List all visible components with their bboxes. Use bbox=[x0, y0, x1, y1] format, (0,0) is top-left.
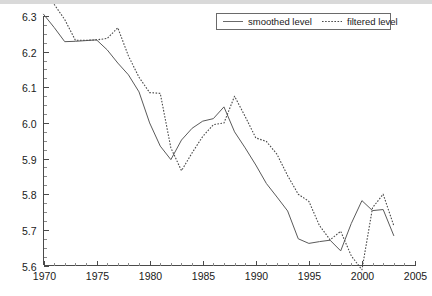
x-tick-label: 1985 bbox=[192, 270, 216, 282]
x-axis-ticks bbox=[45, 261, 416, 266]
x-tick-label: 1975 bbox=[86, 270, 110, 282]
series-smoothed-level bbox=[44, 14, 394, 251]
x-tick-label: 2005 bbox=[404, 270, 428, 282]
x-tick-label: 1995 bbox=[298, 270, 322, 282]
y-tick-label: 6.1 bbox=[22, 82, 37, 94]
legend-label-filtered: filtered level bbox=[347, 16, 398, 27]
y-tick-label: 5.7 bbox=[22, 225, 37, 237]
chart-container: 5.65.75.85.96.06.16.26.3 197019751980198… bbox=[0, 0, 432, 296]
y-axis-tick-labels: 5.65.75.85.96.06.16.26.3 bbox=[22, 11, 37, 273]
x-tick-label: 1990 bbox=[245, 270, 269, 282]
chart-legend: smoothed level filtered level bbox=[217, 14, 398, 30]
y-axis-ticks bbox=[44, 17, 49, 267]
x-axis-group: 19701975198019851990199520002005 bbox=[33, 261, 428, 282]
y-tick-label: 6.3 bbox=[22, 11, 37, 23]
x-tick-label: 2000 bbox=[351, 270, 375, 282]
x-tick-label: 1980 bbox=[139, 270, 163, 282]
y-tick-label: 5.9 bbox=[22, 154, 37, 166]
x-tick-label: 1970 bbox=[33, 270, 57, 282]
data-series-group bbox=[44, 4, 394, 270]
line-chart: 5.65.75.85.96.06.16.26.3 197019751980198… bbox=[0, 0, 432, 296]
legend-label-smoothed: smoothed level bbox=[248, 16, 312, 27]
y-tick-label: 5.8 bbox=[22, 189, 37, 201]
y-tick-label: 6.0 bbox=[22, 118, 37, 130]
y-axis-group: 5.65.75.85.96.06.16.26.3 bbox=[22, 11, 49, 273]
x-axis-tick-labels: 19701975198019851990199520002005 bbox=[33, 270, 428, 282]
y-tick-label: 6.2 bbox=[22, 47, 37, 59]
series-filtered-level bbox=[54, 4, 394, 270]
